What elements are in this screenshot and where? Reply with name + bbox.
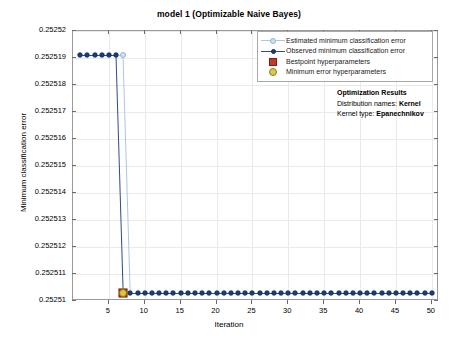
observed-error-data-point (422, 290, 427, 295)
y-axis-tick-label: 0.252513 (35, 214, 66, 223)
legend-line-marker-icon (260, 46, 286, 56)
x-axis-tick-label: 30 (283, 306, 291, 315)
x-axis-tick-label: 40 (355, 306, 363, 315)
gridline-vertical (145, 31, 146, 299)
x-axis-tick-mark (251, 300, 252, 304)
observed-error-data-point (365, 290, 370, 295)
annotation-line: Distribution names: Kernel (337, 99, 424, 110)
x-axis-tick-mark (144, 30, 145, 34)
y-axis-tick-mark (72, 300, 76, 301)
observed-error-data-point (257, 290, 262, 295)
y-axis-tick-mark (72, 30, 76, 31)
gridline-vertical (109, 31, 110, 299)
y-axis-tick-label: 0.252518 (35, 79, 66, 88)
annotation-label: Kernel type: (337, 110, 374, 117)
observed-error-data-point (343, 290, 348, 295)
observed-error-data-point (386, 290, 391, 295)
estimated-error-data-point (120, 52, 126, 58)
y-axis-label: Minimum classification error (19, 78, 28, 248)
y-axis-tick-mark (72, 138, 76, 139)
y-axis-tick-label: 0.25251 (39, 295, 66, 304)
legend-item-label: Observed minimum classification error (286, 46, 405, 56)
observed-error-data-point (236, 290, 241, 295)
observed-error-data-point (178, 290, 183, 295)
observed-error-data-point (106, 53, 111, 58)
y-axis-tick-mark (434, 300, 438, 301)
x-axis-tick-label: 5 (106, 306, 110, 315)
y-axis-tick-label: 0.252517 (35, 106, 66, 115)
legend-item[interactable]: Observed minimum classification error (260, 46, 429, 56)
x-axis-tick-label: 45 (391, 306, 399, 315)
observed-error-data-point (207, 290, 212, 295)
legend-item[interactable]: Estimated minimum classification error (260, 36, 429, 46)
observed-error-data-point (114, 53, 119, 58)
y-axis-tick-mark (72, 111, 76, 112)
x-axis-tick-mark (431, 300, 432, 304)
observed-error-data-point (279, 290, 284, 295)
legend-item[interactable]: Minimum error hyperparameters (260, 67, 429, 77)
legend-line-marker-icon (260, 36, 286, 46)
gridline-horizontal (73, 166, 437, 167)
observed-error-data-point (379, 290, 384, 295)
observed-error-data-point (393, 290, 398, 295)
observed-error-data-point (214, 290, 219, 295)
y-axis-tick-mark (72, 165, 76, 166)
x-axis-tick-mark (108, 30, 109, 34)
observed-error-data-point (429, 290, 434, 295)
observed-error-data-point (149, 290, 154, 295)
y-axis-tick-mark (434, 246, 438, 247)
gridline-vertical (217, 31, 218, 299)
legend-circle-icon (269, 68, 277, 76)
observed-error-data-point (315, 290, 320, 295)
annotation-label: Distribution names: (337, 100, 397, 107)
x-axis-tick-mark (144, 300, 145, 304)
x-axis-tick-label: 15 (175, 306, 183, 315)
observed-error-data-point (300, 290, 305, 295)
x-axis-tick-mark (359, 300, 360, 304)
annotation-heading: Optimization Results (337, 88, 424, 99)
observed-error-data-point (271, 290, 276, 295)
minimum-error-marker (119, 289, 127, 297)
legend-item[interactable]: Bestpoint hyperparameters (260, 57, 429, 67)
y-axis-tick-mark (72, 219, 76, 220)
y-axis-tick-label: 0.252515 (35, 160, 66, 169)
observed-error-data-point (329, 290, 334, 295)
observed-error-data-point (78, 53, 83, 58)
y-axis-tick-mark (72, 57, 76, 58)
x-axis-tick-label: 50 (427, 306, 435, 315)
gridline-horizontal (73, 274, 437, 275)
observed-error-data-point (193, 290, 198, 295)
y-axis-tick-mark (72, 273, 76, 274)
x-axis-tick-label: 10 (140, 306, 148, 315)
x-axis-tick-mark (180, 300, 181, 304)
x-axis-tick-label: 20 (211, 306, 219, 315)
y-axis-tick-mark (72, 84, 76, 85)
y-axis-tick-mark (434, 84, 438, 85)
annotation-line: Kernel type: Epanechnikov (337, 109, 424, 120)
x-axis-tick-mark (216, 30, 217, 34)
x-axis-tick-mark (216, 300, 217, 304)
x-axis-tick-label: 25 (247, 306, 255, 315)
observed-error-data-point (171, 290, 176, 295)
observed-error-data-point (401, 290, 406, 295)
observed-error-data-point (200, 290, 205, 295)
y-axis-tick-mark (434, 30, 438, 31)
observed-error-line-segment (116, 56, 124, 294)
observed-error-data-point (92, 53, 97, 58)
observed-error-data-point (164, 290, 169, 295)
legend-circle-icon (271, 49, 276, 54)
observed-error-data-point (185, 290, 190, 295)
observed-error-data-point (128, 290, 133, 295)
y-axis-tick-mark (434, 219, 438, 220)
y-axis-tick-label: 0.252512 (35, 241, 66, 250)
x-axis-tick-mark (287, 300, 288, 304)
observed-error-data-point (372, 290, 377, 295)
observed-error-data-point (286, 290, 291, 295)
x-axis-tick-mark (251, 30, 252, 34)
y-axis-tick-mark (434, 192, 438, 193)
y-axis-tick-mark (72, 246, 76, 247)
observed-error-data-point (307, 290, 312, 295)
observed-error-data-point (221, 290, 226, 295)
y-axis-tick-label: 0.252511 (35, 268, 66, 277)
x-axis-tick-mark (108, 300, 109, 304)
